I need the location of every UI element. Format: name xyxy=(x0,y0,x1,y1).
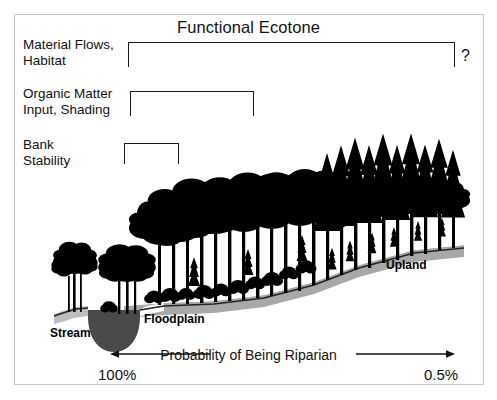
axis-value-left: 100% xyxy=(98,366,136,383)
uncertain-extent-marker: ? xyxy=(461,47,470,65)
gradient-bracket-bank-stability xyxy=(124,143,179,164)
gradient-label-material-flows: Material Flows, Habitat xyxy=(23,37,114,68)
zone-label-stream: Stream xyxy=(50,326,91,340)
gradient-label-bank-stability: Bank Stability xyxy=(23,137,70,168)
zone-label-floodplain: Floodplain xyxy=(144,312,205,326)
gradient-bracket-organic-matter xyxy=(130,91,254,116)
axis-value-right: 0.5% xyxy=(424,366,458,383)
axis-caption: Probability of Being Riparian xyxy=(0,347,497,363)
gradient-label-organic-matter: Organic Matter Input, Shading xyxy=(23,86,112,117)
functional-ecotone-figure: Functional Ecotone xyxy=(0,0,497,400)
stream-water xyxy=(88,310,140,352)
zone-label-upland: Upland xyxy=(386,258,427,272)
gradient-bracket-material-flows xyxy=(128,42,455,67)
